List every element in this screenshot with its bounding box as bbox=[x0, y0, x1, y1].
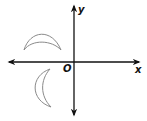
crescent-upper-left bbox=[24, 34, 61, 50]
origin-label: O bbox=[63, 63, 72, 74]
y-axis-label: y bbox=[78, 4, 85, 15]
crescent-lower-left bbox=[35, 69, 51, 107]
x-axis-label: x bbox=[134, 64, 142, 75]
coordinate-plane-figure: y x O bbox=[0, 0, 147, 121]
